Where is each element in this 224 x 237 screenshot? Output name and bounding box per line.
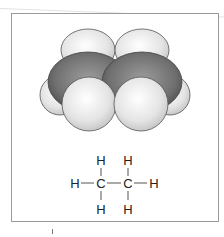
hydrogen-atom-front-left — [62, 77, 116, 131]
ethane-diagram: H H H C C H H H — [0, 0, 224, 237]
atom-label-c-right: C — [123, 176, 132, 191]
atom-label-h-bottom-right: H — [123, 202, 132, 217]
atom-label-h-bottom-left: H — [96, 202, 105, 217]
atom-label-h-right: H — [149, 176, 158, 191]
atom-label-h-top-left: H — [96, 153, 105, 168]
space-filling-model — [40, 29, 190, 131]
atom-label-c-left: C — [96, 176, 105, 191]
atom-label-h-top-right: H — [123, 153, 132, 168]
atom-label-h-left: H — [70, 176, 79, 191]
hydrogen-atom-front-right — [114, 77, 168, 131]
structural-formula: H H H C C H H H — [70, 153, 158, 217]
scan-artifact-tick — [52, 229, 53, 234]
